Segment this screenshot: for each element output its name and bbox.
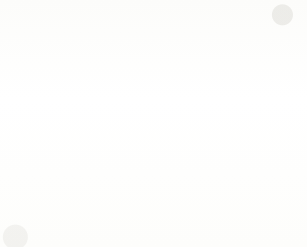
data-point-marker [100,125,104,129]
x-tick-label: 2500 [267,216,279,222]
x-tick-label: 1600 [233,216,245,222]
data-point-marker [152,103,156,107]
x-tick-label: 800 [183,216,192,222]
y-tick-label: 60 [24,64,30,70]
data-point-marker [32,152,36,156]
x-tick-label: 630 [166,216,175,222]
x-tick-label: 500 [149,216,158,222]
data-point-marker [203,88,207,92]
x-tick-label: 160 [63,216,72,222]
y-tick-label: 50 [24,88,30,94]
data-point-marker [117,112,121,116]
line-chart: 1001251602002503154005006308001000125016… [0,0,307,247]
data-point-marker [271,94,275,98]
x-tick-label: 1250 [216,216,228,222]
data-point-marker [237,88,241,92]
x-tick-label: 2000 [250,216,262,222]
data-point-marker [203,111,207,115]
x-tick-label: 125 [46,216,55,222]
data-point-marker [186,116,190,120]
y-axis-title: Normalised SL difference Dn (dB) [9,73,15,158]
data-series-layer [32,87,293,166]
chart-figure: 1001251602002503154005006308001000125016… [0,0,307,247]
data-point-marker [169,97,173,101]
y-tick-label: 0 [27,209,30,215]
data-point-marker [220,107,224,111]
data-point-marker [100,121,104,125]
series-line-series-upper [34,89,291,154]
data-point-marker [186,87,190,91]
x-tick-label: 1000 [199,216,211,222]
data-point-marker [169,110,173,114]
data-point-marker [220,87,224,91]
x-tick-label: 400 [132,216,141,222]
y-tick-label: 20 [24,161,30,167]
grid-layer [34,18,291,212]
x-tick-label: 200 [80,216,89,222]
data-point-marker [66,125,70,128]
y-tick-label: 10 [24,185,30,191]
y-tick-label: 30 [24,136,30,142]
x-tick-label: 100 [29,216,38,222]
y-tick-label: 70 [24,39,30,45]
x-tick-labels: 1001251602002503154005006308001000125016… [29,216,297,222]
data-point-marker [254,90,257,94]
data-point-marker [272,89,276,93]
y-tick-label: 40 [24,112,30,118]
x-axis-title: Third octave band centre frequency (Hz) [111,227,213,233]
y-tick-label: 80 [24,15,30,21]
data-point-marker [254,100,258,104]
series-line-series-lower [34,95,291,163]
data-point-marker [66,134,70,138]
data-point-marker [289,87,293,91]
data-point-marker [237,106,241,110]
data-point-marker [152,108,156,112]
x-tick-label: 3150 [284,216,296,222]
x-tick-label: 250 [97,216,106,222]
data-point-marker [117,117,121,121]
y-tick-labels: 01020304050607080 [24,15,30,215]
x-tick-label: 315 [114,216,123,222]
data-point-marker [289,93,293,97]
tick-marks-layer [31,18,290,214]
